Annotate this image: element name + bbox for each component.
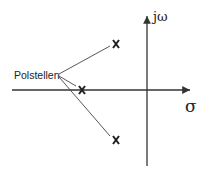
diagram-svg: jω σ Polstellen xyxy=(0,0,206,173)
pole-marker-lower xyxy=(113,136,119,144)
imaginary-axis-label: jω xyxy=(151,9,168,24)
pole-zero-diagram: jω σ Polstellen xyxy=(0,0,206,173)
pole-marker-upper xyxy=(113,40,119,48)
real-axis-label: σ xyxy=(185,96,197,116)
leader-line-upper xyxy=(59,46,110,74)
leader-line-real xyxy=(59,76,76,86)
poles-annotation-label: Polstellen xyxy=(14,69,60,81)
